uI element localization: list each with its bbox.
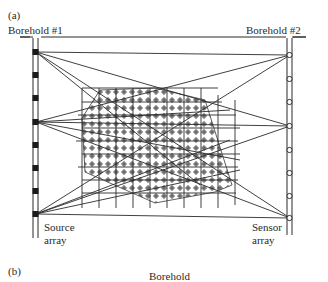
source-label-line1: Source	[44, 221, 75, 233]
borehole-2	[286, 34, 306, 235]
borehole-2-label: Borehold #2	[246, 24, 301, 36]
borehole-1-label: Borehold #1	[8, 24, 63, 36]
sensor-label-line1: Sensor	[252, 221, 282, 233]
sensor-array	[287, 52, 292, 220]
source-label-line2: array	[44, 234, 67, 246]
panel-b-borehold-label: Borehold	[149, 270, 190, 282]
borehole-1	[20, 34, 41, 238]
sensor-label-line2: array	[252, 234, 275, 246]
panel-a-label: (a)	[8, 9, 20, 21]
panel-b-label: (b)	[8, 265, 21, 277]
